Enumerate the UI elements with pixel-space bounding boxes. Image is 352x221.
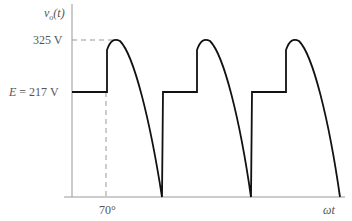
- waveform-diagram: vo(t) 325 V E = 217 V 70° ωt: [0, 0, 352, 221]
- y-axis-label: vo(t): [44, 6, 65, 22]
- angle-tick-label: 70°: [99, 203, 116, 218]
- x-axis-label: ωt: [323, 203, 335, 218]
- battery-voltage-label: E = 217 V: [9, 85, 59, 100]
- peak-voltage-label: 325 V: [33, 33, 62, 48]
- output-voltage-curve: [72, 40, 340, 197]
